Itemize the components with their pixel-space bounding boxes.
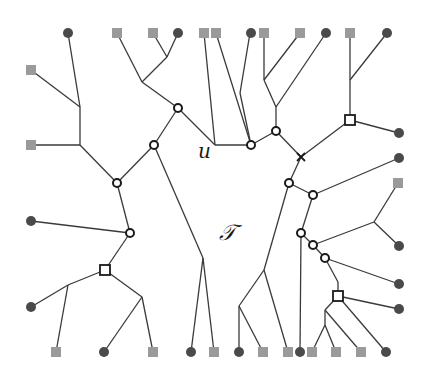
tree-edge (56, 285, 68, 352)
inner-circle-node (113, 179, 121, 187)
tree-edge (264, 33, 300, 80)
leaf-square-node (283, 347, 293, 357)
tree-edge (240, 93, 251, 145)
leaf-circle-node (394, 304, 404, 314)
tree-edges (31, 33, 399, 352)
tree-edge (142, 297, 153, 352)
leaf-circle-node (321, 28, 331, 38)
node-label-u: u (198, 139, 211, 163)
leaf-circle-node (99, 347, 109, 357)
cross-markers (297, 153, 305, 161)
tree-edge (104, 297, 142, 352)
tree-edge (350, 33, 387, 80)
tree-edge (80, 145, 117, 183)
leaf-square-node (331, 347, 341, 357)
tree-edge (264, 80, 276, 107)
leaf-square-node (258, 347, 268, 357)
leaf-square-node (148, 28, 158, 38)
inner-square-node (333, 291, 343, 301)
inner-circle-node (272, 127, 280, 135)
leaf-circle-node (394, 241, 404, 251)
leaf-square-node (26, 65, 36, 75)
leaf-square-node (211, 28, 221, 38)
leaf-square-node (51, 347, 61, 357)
leaf-square-node (356, 347, 366, 357)
leaf-square-node (112, 28, 122, 38)
leaf-square-node (26, 140, 36, 150)
inner-circle-node (297, 229, 305, 237)
tree-edge (204, 33, 215, 145)
leaf-circle-node (394, 153, 404, 163)
tree-edge (374, 183, 398, 222)
inner-square-node (345, 115, 355, 125)
tree-label-t: 𝒯 (219, 220, 243, 245)
inner-circle-node (309, 241, 317, 249)
tree-edge (203, 258, 214, 352)
inner-circle-node (247, 141, 255, 149)
tree-edge (68, 33, 80, 107)
tree-edge (264, 183, 289, 270)
inner-circle-node (285, 179, 293, 187)
tree-edge (240, 33, 250, 93)
leaf-square-nodes (26, 28, 403, 357)
tree-edge (374, 222, 399, 246)
tree-edge (264, 270, 288, 352)
tree-edge (31, 70, 80, 107)
leaf-circle-node (234, 347, 244, 357)
tree-edge (117, 33, 142, 82)
tree-edge (300, 233, 301, 352)
tree-edge (154, 108, 178, 145)
leaf-circle-node (382, 28, 392, 38)
tree-edge (276, 33, 326, 107)
inner-circle-node (309, 191, 317, 199)
leaf-square-node (259, 28, 269, 38)
leaf-circle-node (26, 302, 36, 312)
leaf-square-node (209, 347, 219, 357)
tree-edge (301, 120, 350, 157)
leaf-square-node (307, 347, 317, 357)
leaf-circle-node (246, 28, 256, 38)
inner-circle-node (321, 254, 329, 262)
tree-edge (31, 221, 130, 233)
tree-edge (191, 258, 203, 352)
leaf-square-node (393, 178, 403, 188)
tree-edge (216, 33, 251, 145)
leaf-circle-node (186, 347, 196, 357)
leaf-square-node (148, 347, 158, 357)
leaf-circle-node (63, 28, 73, 38)
tree-edge (142, 57, 167, 82)
tree-edge (239, 306, 263, 352)
inner-square-node (100, 265, 110, 275)
tree-edge (117, 183, 130, 233)
tree-edge (325, 258, 399, 284)
tree-edge (301, 195, 313, 233)
tree-edge (313, 158, 399, 195)
leaf-circle-node (394, 279, 404, 289)
leaf-circle-node (381, 347, 391, 357)
tree-edge (31, 285, 68, 307)
leaf-circle-node (173, 28, 183, 38)
leaf-circle-node (295, 347, 305, 357)
leaf-circle-node (394, 128, 404, 138)
inner-circle-node (150, 141, 158, 149)
tree-edge (154, 145, 203, 258)
tree-edge (350, 120, 399, 133)
inner-square-nodes (100, 115, 355, 301)
tree-diagram: u 𝒯 (0, 0, 426, 366)
leaf-square-node (295, 28, 305, 38)
tree-edge (239, 270, 264, 306)
leaf-circle-node (26, 216, 36, 226)
tree-edge (117, 145, 154, 183)
inner-circle-node (126, 229, 134, 237)
leaf-square-node (199, 28, 209, 38)
inner-circle-node (174, 104, 182, 112)
tree-edge (142, 82, 178, 108)
tree-edge (313, 222, 374, 245)
leaf-square-node (345, 28, 355, 38)
